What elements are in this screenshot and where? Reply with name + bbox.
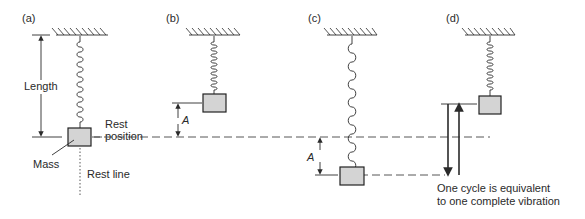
ceiling-hatch xyxy=(186,28,240,35)
mass-pointer xyxy=(52,140,74,155)
caption-line-2: to one complete vibration xyxy=(437,195,560,207)
panel-a-label: (a) xyxy=(22,12,35,24)
caption-line-1: One cycle is equivalent xyxy=(437,182,550,194)
panel-d: (d) One cycle is equivalent to one compl… xyxy=(437,12,560,207)
panel-c: (c) A xyxy=(306,12,377,185)
spring xyxy=(348,36,356,170)
panel-c-label: (c) xyxy=(308,12,321,24)
panel-b: (b) A xyxy=(166,12,240,134)
panel-b-label: (b) xyxy=(166,12,179,24)
spring xyxy=(77,36,83,128)
panel-d-label: (d) xyxy=(446,12,459,24)
panel-a: (a) Length Rest position Mass Rest line xyxy=(22,12,143,195)
length-label: Length xyxy=(24,80,58,92)
spring xyxy=(211,36,217,94)
amplitude-label: A xyxy=(181,114,189,126)
mass-label: Mass xyxy=(33,158,60,170)
ceiling-hatch xyxy=(324,28,377,35)
mass xyxy=(340,167,364,185)
position-label: position xyxy=(105,130,143,142)
mass xyxy=(203,94,226,112)
spring xyxy=(487,36,493,96)
ceiling-hatch xyxy=(52,28,106,35)
ceiling-hatch xyxy=(462,28,515,35)
rest-line-label: Rest line xyxy=(87,168,130,180)
amplitude-label: A xyxy=(306,151,314,163)
spring-mass-diagram: (a) Length Rest position Mass Rest line … xyxy=(0,0,585,219)
rest-label: Rest xyxy=(105,118,128,130)
mass xyxy=(68,128,91,146)
mass xyxy=(479,96,501,114)
